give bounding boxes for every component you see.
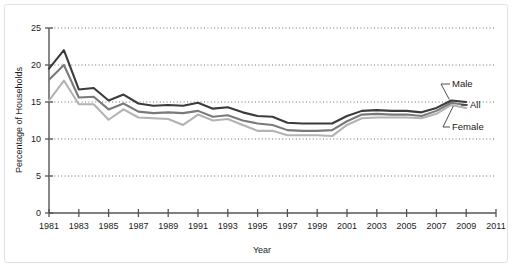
series-label-all: All bbox=[470, 99, 481, 110]
y-tick-label-10: 10 bbox=[31, 134, 41, 144]
y-tick-label-20: 20 bbox=[31, 60, 41, 70]
x-tick-label-2007: 2007 bbox=[426, 221, 446, 231]
figure-container: MaleAllFemale 0510152025 198119831985198… bbox=[0, 0, 514, 269]
x-tick-label-2011: 2011 bbox=[486, 221, 505, 231]
x-tick-label-1985: 1985 bbox=[99, 221, 119, 231]
x-tick-label-1999: 1999 bbox=[307, 221, 327, 231]
x-tick-label-1981: 1981 bbox=[39, 221, 59, 231]
y-tick-label-5: 5 bbox=[36, 171, 41, 181]
data-series bbox=[49, 50, 466, 136]
gridlines bbox=[51, 28, 494, 176]
y-axis-tick-labels: 0510152025 bbox=[31, 23, 41, 218]
line-chart: MaleAllFemale 0510152025 198119831985198… bbox=[0, 0, 514, 269]
x-tick-label-1995: 1995 bbox=[248, 221, 268, 231]
y-tick-label-25: 25 bbox=[31, 23, 41, 33]
x-axis-title: Year bbox=[253, 245, 271, 255]
leader-line-male bbox=[441, 84, 450, 100]
x-tick-label-2005: 2005 bbox=[397, 221, 417, 231]
x-tick-label-1997: 1997 bbox=[277, 221, 297, 231]
x-tick-label-1989: 1989 bbox=[158, 221, 178, 231]
x-tick-label-2009: 2009 bbox=[456, 221, 476, 231]
x-tick-label-1987: 1987 bbox=[128, 221, 148, 231]
x-tick-label-2003: 2003 bbox=[367, 221, 387, 231]
x-tick-label-1991: 1991 bbox=[188, 221, 208, 231]
series-label-female: Female bbox=[452, 121, 484, 132]
series-label-male: Male bbox=[452, 78, 473, 89]
x-tick-label-1983: 1983 bbox=[69, 221, 89, 231]
y-tick-label-0: 0 bbox=[36, 208, 41, 218]
x-axis-tick-labels: 1981198319851987198919911993199519971999… bbox=[39, 221, 506, 231]
x-tick-label-1993: 1993 bbox=[218, 221, 238, 231]
series-line-male bbox=[49, 50, 466, 123]
y-tick-label-15: 15 bbox=[31, 97, 41, 107]
x-tick-label-2001: 2001 bbox=[337, 221, 357, 231]
series-line-all bbox=[49, 65, 466, 131]
y-axis-title: Percentage of Households bbox=[14, 66, 24, 173]
